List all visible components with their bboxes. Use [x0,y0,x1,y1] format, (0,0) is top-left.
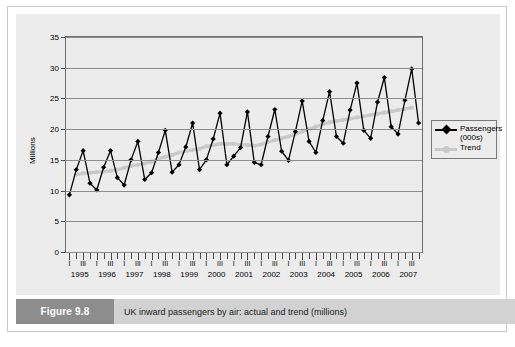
passengers-point [382,75,387,80]
x-axis-quarter-label: I [123,260,125,268]
figure-number-text: Figure 9.8 [40,306,89,317]
x-axis-tick-mark [261,253,262,260]
x-axis-quarter-label: III [162,260,168,268]
passengers-point [156,150,161,155]
trend-point [122,166,126,170]
x-axis-tick-mark [282,253,283,259]
figure-caption-bar: Figure 9.8 UK inward passengers by air: … [16,299,515,324]
x-axis-tick-mark [419,253,420,259]
trend-point [286,134,290,138]
x-axis-tick-mark [213,253,214,259]
x-axis-quarter-label: I [205,260,207,268]
circle-marker-icon [435,144,457,154]
x-axis-tick-mark [330,253,331,260]
trend-point [225,142,229,146]
x-axis-tick-mark [316,253,317,260]
x-axis-year-label: 2003 [290,270,308,279]
passengers-point [272,107,277,112]
gridline [66,68,422,69]
legend-label-passengers-line2: (000s) [460,133,483,142]
x-axis-tick-mark [371,253,372,260]
trend-point [143,161,147,165]
passengers-point [108,148,113,153]
x-axis-tick-mark [179,253,180,260]
x-axis-tick-mark [227,253,228,259]
x-axis-tick-mark [90,253,91,259]
x-axis-quarter-label: I [370,260,372,268]
trend-point [410,106,414,110]
x-axis-tick-mark [412,253,413,260]
diamond-marker-icon [435,125,457,135]
x-axis-tick-mark [104,253,105,259]
x-axis-year-label: 1999 [180,270,198,279]
trend-point [95,170,99,174]
trend-point [382,110,386,114]
x-axis-tick-mark [323,253,324,259]
gridline [66,160,422,161]
x-axis-tick-mark [254,253,255,259]
trend-point [232,142,236,146]
x-axis-tick-mark [158,253,159,259]
x-axis-tick-mark [97,253,98,260]
x-axis-year-label: 2002 [262,270,280,279]
passengers-point [74,167,79,172]
x-axis-tick-mark [234,253,235,260]
x-axis-tick-mark [145,253,146,259]
x-axis-tick-mark [357,253,358,260]
x-axis-tick-mark [220,253,221,260]
x-axis-tick-mark [398,253,399,260]
x-axis-tick-mark [193,253,194,260]
passengers-point [245,109,250,114]
x-axis-quarter-label: I [260,260,262,268]
passengers-point [211,136,216,141]
x-axis-quarter-label: III [245,260,251,268]
plot-area [65,36,423,253]
x-axis-tick-mark [289,253,290,260]
x-axis-quarter-label: III [108,260,114,268]
passengers-point [348,108,353,113]
y-axis-tick-label: 25 [41,94,59,103]
trend-point [177,150,181,154]
y-axis-tick-label: 5 [41,217,59,226]
x-axis-tick-mark [138,253,139,260]
passengers-point [265,134,270,139]
gridline [66,37,422,38]
chart-legend: Passengers (000s) Trend [431,120,497,159]
gridline [66,129,422,130]
y-axis-title: Millions [28,137,37,164]
x-axis-tick-mark [206,253,207,260]
trend-point [245,143,249,147]
x-axis-tick-mark [76,253,77,259]
passengers-point [416,120,421,125]
passengers-line [69,69,418,195]
x-axis-quarter-label: I [68,260,70,268]
trend-point [191,148,195,152]
series-lines [66,37,422,252]
trend-point [163,155,167,159]
x-axis-tick-mark [309,253,310,259]
x-axis-year-label: 2004 [317,270,335,279]
legend-label-trend: Trend [460,143,481,152]
x-axis-quarter-label: III [354,260,360,268]
x-axis-tick-mark [172,253,173,259]
y-axis-tick-label: 20 [41,125,59,134]
x-axis-year-label: 2000 [208,270,226,279]
x-axis-year-label: 1995 [71,270,89,279]
passengers-point [81,148,86,153]
legend-item-trend: Trend [435,143,492,154]
x-axis-tick-mark [336,253,337,259]
x-axis-tick-marks [66,253,424,260]
x-axis-quarter-label: I [315,260,317,268]
passengers-point [259,162,264,167]
x-axis-tick-mark [378,253,379,259]
x-axis-year-label: 1997 [126,270,144,279]
x-axis-quarter-label: III [80,260,86,268]
x-axis-tick-mark [117,253,118,259]
trend-point [108,169,112,173]
passengers-point [327,89,332,94]
passengers-point [375,100,380,105]
gridline [66,98,422,99]
x-axis-year-label: 2001 [235,270,253,279]
x-axis-quarter-label: I [233,260,235,268]
trend-point [355,115,359,119]
